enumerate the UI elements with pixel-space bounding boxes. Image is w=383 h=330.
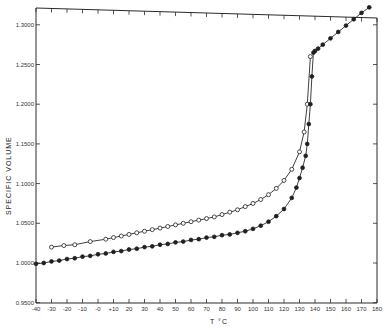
filled-data-point xyxy=(166,242,170,246)
filled-data-point xyxy=(212,235,216,239)
open-data-point xyxy=(73,243,77,247)
filled-data-point xyxy=(360,11,364,15)
open-data-point xyxy=(243,205,247,209)
filled-data-point xyxy=(81,255,85,259)
open-data-point xyxy=(267,193,271,197)
x-tick-label: 140 xyxy=(310,306,321,312)
filled-data-point xyxy=(267,220,271,224)
filled-data-point xyxy=(228,233,232,237)
x-tick-label: 90 xyxy=(234,306,241,312)
y-tick-label: 1.1500 xyxy=(16,141,35,147)
filled-data-point xyxy=(295,186,299,190)
open-data-point xyxy=(50,245,54,249)
open-data-point xyxy=(274,186,278,190)
x-tick-label: -10 xyxy=(78,306,87,312)
upper-curve xyxy=(52,57,311,248)
open-data-point xyxy=(88,240,92,244)
x-tick-label: 50 xyxy=(172,306,179,312)
x-tick-label: 70 xyxy=(203,306,210,312)
open-data-point xyxy=(150,228,154,232)
filled-data-point xyxy=(290,196,294,200)
plot-frame xyxy=(36,8,377,303)
x-tick-label: -40 xyxy=(32,306,41,312)
y-axis-label: SPECIFIC VOLUME xyxy=(5,136,12,215)
x-tick-label: -0 xyxy=(95,306,101,312)
x-tick-label: 20 xyxy=(126,306,133,312)
open-data-point xyxy=(112,236,116,240)
open-data-point xyxy=(174,223,178,227)
open-data-point xyxy=(197,218,201,222)
filled-data-point xyxy=(251,227,255,231)
x-tick-label: 80 xyxy=(219,306,226,312)
open-data-point xyxy=(302,130,306,134)
x-tick-label: 170 xyxy=(356,306,367,312)
open-data-point xyxy=(228,210,232,214)
filled-data-point xyxy=(274,214,278,218)
filled-data-point xyxy=(304,154,308,158)
open-data-point xyxy=(212,215,216,219)
filled-data-point xyxy=(243,229,247,233)
filled-data-point xyxy=(143,245,147,249)
x-tick-label: 180 xyxy=(372,306,383,312)
x-tick-label: -20 xyxy=(63,306,72,312)
filled-data-point xyxy=(367,5,371,9)
open-data-point xyxy=(143,229,147,233)
filled-data-point xyxy=(88,254,92,258)
open-data-point xyxy=(251,201,255,205)
open-data-point xyxy=(236,208,240,212)
open-data-point xyxy=(158,226,162,230)
filled-data-point xyxy=(344,24,348,28)
filled-data-point xyxy=(220,233,224,237)
filled-data-point xyxy=(57,259,61,263)
filled-data-point xyxy=(158,243,162,247)
filled-data-point xyxy=(259,224,263,228)
filled-data-point xyxy=(310,75,314,79)
x-tick-label: 110 xyxy=(264,306,274,312)
y-tick-label: 1.2000 xyxy=(16,101,35,107)
y-tick-label: 0.9500 xyxy=(16,300,35,306)
specific-volume-chart: -40-30-20-10-0+1020304050607080901001101… xyxy=(0,0,383,330)
filled-data-point xyxy=(236,231,240,235)
y-tick-label: 1.3000 xyxy=(16,22,35,28)
filled-data-point xyxy=(307,122,311,126)
filled-data-point xyxy=(42,261,46,265)
x-tick-label: +10 xyxy=(108,306,119,312)
y-tick-label: 1.2500 xyxy=(16,62,35,68)
filled-data-point xyxy=(308,102,312,106)
y-tick-label: 1.0500 xyxy=(16,220,35,226)
filled-data-point xyxy=(336,30,340,34)
x-tick-label: 60 xyxy=(188,306,195,312)
open-data-point xyxy=(166,224,170,228)
filled-data-point xyxy=(34,262,38,266)
open-data-point xyxy=(282,178,286,182)
y-tick-label: 1.0000 xyxy=(16,260,35,266)
x-axis-label: T °C xyxy=(210,318,228,325)
y-axis-ticks: 0.95001.00001.05001.10001.15001.20001.25… xyxy=(16,22,377,306)
filled-data-point xyxy=(282,207,286,211)
filled-data-point xyxy=(119,249,123,253)
open-data-point xyxy=(135,231,139,235)
filled-data-point xyxy=(197,237,201,241)
open-data-point xyxy=(220,213,224,217)
x-tick-label: 100 xyxy=(248,306,259,312)
x-tick-label: -30 xyxy=(47,306,56,312)
x-tick-label: 40 xyxy=(157,306,164,312)
filled-data-point xyxy=(112,250,116,254)
open-data-point xyxy=(308,55,312,59)
filled-data-point xyxy=(50,260,54,264)
y-tick-label: 1.1000 xyxy=(16,181,35,187)
filled-data-point xyxy=(298,176,302,180)
filled-data-point xyxy=(65,257,69,261)
filled-data-point xyxy=(205,236,209,240)
open-data-point xyxy=(290,167,294,171)
filled-data-point xyxy=(104,252,108,256)
filled-data-point xyxy=(135,247,139,251)
filled-data-point xyxy=(305,142,309,146)
x-tick-label: 30 xyxy=(141,306,148,312)
open-data-point xyxy=(298,150,302,154)
curves xyxy=(36,7,369,264)
filled-data-point xyxy=(316,47,320,51)
x-tick-label: 160 xyxy=(341,306,352,312)
filled-data-point xyxy=(150,244,154,248)
filled-data-point xyxy=(321,43,325,47)
